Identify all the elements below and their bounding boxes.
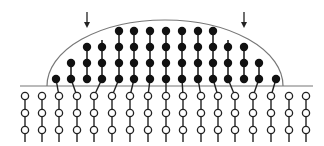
open-node bbox=[197, 126, 204, 133]
down-arrow-icon bbox=[84, 12, 90, 28]
ordered-chain bbox=[98, 40, 106, 83]
filled-node bbox=[178, 59, 186, 67]
open-node bbox=[38, 126, 45, 133]
open-node bbox=[21, 109, 28, 116]
filled-node bbox=[98, 75, 106, 83]
filled-node bbox=[115, 43, 123, 51]
open-node bbox=[267, 126, 274, 133]
open-node bbox=[249, 109, 256, 116]
open-node bbox=[21, 92, 28, 99]
disordered-chain bbox=[144, 92, 151, 142]
open-node bbox=[90, 109, 97, 116]
open-node bbox=[73, 126, 80, 133]
filled-node bbox=[146, 75, 154, 83]
open-node bbox=[231, 126, 238, 133]
ordered-chain bbox=[255, 59, 263, 83]
disordered-chain bbox=[231, 92, 238, 142]
disordered-chain bbox=[55, 92, 62, 142]
filled-node bbox=[115, 27, 123, 35]
ordered-chain bbox=[240, 43, 248, 83]
ordered-chain bbox=[115, 27, 123, 83]
open-node bbox=[302, 109, 309, 116]
disordered-chain bbox=[73, 92, 80, 142]
ordered-chain bbox=[52, 75, 60, 83]
disordered-chain bbox=[126, 92, 133, 142]
open-node bbox=[214, 92, 221, 99]
open-node bbox=[285, 92, 292, 99]
filled-node bbox=[240, 43, 248, 51]
ordered-chain bbox=[194, 27, 202, 83]
open-node bbox=[73, 92, 80, 99]
filled-node bbox=[224, 59, 232, 67]
filled-node bbox=[130, 75, 138, 83]
filled-node bbox=[130, 43, 138, 51]
arrow-head bbox=[241, 22, 247, 28]
disordered-chain bbox=[108, 92, 115, 142]
filled-node bbox=[162, 43, 170, 51]
filled-node bbox=[162, 75, 170, 83]
filled-node bbox=[209, 43, 217, 51]
filled-node bbox=[130, 27, 138, 35]
disordered-chain bbox=[90, 92, 97, 142]
open-node bbox=[90, 126, 97, 133]
ordered-chain bbox=[209, 27, 217, 83]
filled-node bbox=[162, 59, 170, 67]
open-node bbox=[108, 92, 115, 99]
disordered-chain bbox=[249, 92, 256, 142]
filled-node bbox=[115, 75, 123, 83]
open-node bbox=[162, 126, 169, 133]
filled-node bbox=[98, 43, 106, 51]
filled-node bbox=[83, 59, 91, 67]
filled-node bbox=[146, 27, 154, 35]
disordered-chain bbox=[38, 92, 45, 142]
arrow-head bbox=[84, 22, 90, 28]
open-node bbox=[285, 126, 292, 133]
open-node bbox=[55, 92, 62, 99]
ordered-chain bbox=[83, 43, 91, 83]
filled-node bbox=[209, 27, 217, 35]
open-node bbox=[162, 92, 169, 99]
open-node bbox=[214, 126, 221, 133]
open-node bbox=[126, 92, 133, 99]
ordered-chain bbox=[130, 27, 138, 83]
open-node bbox=[38, 109, 45, 116]
open-node bbox=[285, 109, 292, 116]
open-node bbox=[267, 92, 274, 99]
filled-node bbox=[194, 59, 202, 67]
filled-node bbox=[146, 59, 154, 67]
open-node bbox=[302, 126, 309, 133]
open-node bbox=[162, 109, 169, 116]
disordered-chain bbox=[21, 92, 28, 142]
down-arrow-icon bbox=[241, 12, 247, 28]
filled-node bbox=[146, 43, 154, 51]
open-node bbox=[144, 92, 151, 99]
open-node bbox=[267, 109, 274, 116]
filled-node bbox=[130, 59, 138, 67]
filled-node bbox=[178, 27, 186, 35]
open-node bbox=[197, 92, 204, 99]
ordered-chain bbox=[67, 59, 75, 83]
open-node bbox=[179, 92, 186, 99]
filled-node bbox=[83, 75, 91, 83]
open-node bbox=[231, 92, 238, 99]
open-node bbox=[249, 126, 256, 133]
ordered-chain bbox=[146, 27, 154, 83]
open-node bbox=[144, 126, 151, 133]
filled-node bbox=[67, 59, 75, 67]
filled-node bbox=[240, 75, 248, 83]
open-node bbox=[55, 109, 62, 116]
ordered-chain bbox=[162, 27, 170, 83]
diagram-canvas bbox=[0, 0, 324, 146]
filled-node bbox=[67, 75, 75, 83]
ordered-chains bbox=[52, 27, 280, 83]
open-node bbox=[126, 109, 133, 116]
open-node bbox=[179, 126, 186, 133]
open-node bbox=[73, 109, 80, 116]
open-node bbox=[108, 126, 115, 133]
disordered-chain bbox=[214, 92, 221, 142]
filled-node bbox=[209, 59, 217, 67]
ordered-chain bbox=[178, 27, 186, 83]
filled-node bbox=[255, 59, 263, 67]
filled-node bbox=[209, 75, 217, 83]
open-node bbox=[144, 109, 151, 116]
